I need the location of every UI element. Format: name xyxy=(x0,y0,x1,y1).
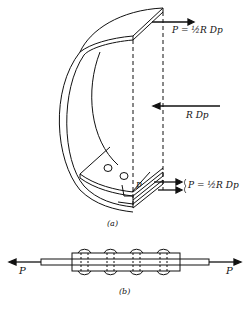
bottom-force-label: P = ½R Dp xyxy=(188,180,239,190)
top-force-label: P = ½R Dp xyxy=(172,25,223,35)
figure-a-caption: (a) xyxy=(107,219,118,228)
riveted-joint-diagram xyxy=(0,0,251,309)
middle-force-label: R Dp xyxy=(186,110,209,120)
force-arrows-a xyxy=(152,19,220,193)
left-force-label: P xyxy=(19,265,26,276)
figure-b-caption: (b) xyxy=(119,287,130,296)
pitch-label: p xyxy=(136,179,142,189)
shell-half-cylinder xyxy=(59,8,163,212)
right-force-label: P xyxy=(226,265,233,276)
lap-joint-side-view xyxy=(9,249,241,275)
